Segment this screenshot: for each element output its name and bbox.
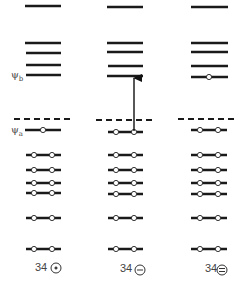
caption-anion-number: 34 [120,262,132,274]
electron-icon [197,152,202,157]
psi-a-label: ψa [11,124,23,138]
electron-icon [31,180,36,185]
electron-icon [113,167,118,172]
electron-icon [49,215,54,220]
electron-icon [197,246,202,251]
electron-icon [40,127,45,132]
electrons-dianion [197,74,220,251]
electrons-anion [113,129,136,251]
electron-icon [49,190,54,195]
electron-icon [197,215,202,220]
electron-icon [131,152,136,157]
electron-icon [215,167,220,172]
electron-icon [31,152,36,157]
electron-icon [113,191,118,196]
electron-icon [49,152,54,157]
electron-icon [49,246,54,251]
electron-icon [113,152,118,157]
electron-icon [31,246,36,251]
electron-icon [31,215,36,220]
psi-b-label: ψb [11,69,23,83]
electron-icon [215,191,220,196]
electron-icon [31,190,36,195]
electrons-neutral [31,127,54,251]
electron-icon [113,180,118,185]
electron-icon [113,129,118,134]
electron-icon [113,246,118,251]
caption-neutral-number: 34 [35,261,47,273]
electron-icon [197,180,202,185]
electron-icon [197,167,202,172]
electron-icon [197,191,202,196]
electron-icon [131,191,136,196]
electron-icon [49,167,54,172]
column-dianion [178,7,238,249]
electron-icon [215,215,220,220]
electron-icon [131,167,136,172]
electron-icon [131,180,136,185]
electron-icon [131,246,136,251]
circled-double-minus-icon [217,265,227,275]
caption-dianion-number: 34 [205,262,217,274]
column-anion [96,7,155,249]
electron-icon [215,246,220,251]
electron-icon [215,180,220,185]
electron-icon [49,180,54,185]
electron-icon [215,127,220,132]
electron-icon [197,127,202,132]
electron-icon [206,74,211,79]
electron-icon [113,215,118,220]
electron-icon [31,167,36,172]
energy-level-diagram [0,0,248,285]
caption-symbols [51,263,227,275]
electron-icon [215,152,220,157]
electron-icon [131,215,136,220]
